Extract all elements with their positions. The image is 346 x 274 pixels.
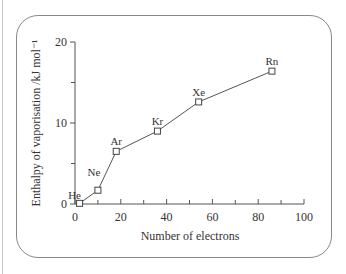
x-tick-label: 100 bbox=[295, 210, 313, 224]
y-tick-label: 20 bbox=[55, 35, 67, 49]
enthalpy-chart: 02040608010001020 HeNeArKrXeRn Number of… bbox=[0, 0, 346, 274]
y-axis-title: Enthalpy of vaporisation /kJ mol⁻¹ bbox=[29, 39, 43, 206]
x-axis-title: Number of electrons bbox=[141, 229, 240, 243]
data-point-marker bbox=[269, 68, 275, 74]
point-label-rn: Rn bbox=[266, 55, 279, 67]
data-point-marker bbox=[154, 128, 160, 134]
data-series: HeNeArKrXeRn bbox=[68, 55, 279, 206]
point-label-xe: Xe bbox=[192, 86, 205, 98]
point-label-ar: Ar bbox=[110, 135, 122, 147]
data-point-marker bbox=[196, 99, 202, 105]
x-tick-label: 60 bbox=[206, 210, 218, 224]
x-tick-label: 0 bbox=[72, 210, 78, 224]
point-label-kr: Kr bbox=[152, 115, 164, 127]
data-point-marker bbox=[95, 187, 101, 193]
y-tick-label: 0 bbox=[61, 197, 67, 211]
y-tick-label: 10 bbox=[55, 116, 67, 130]
x-tick-label: 20 bbox=[115, 210, 127, 224]
series-line bbox=[80, 71, 272, 203]
x-tick-label: 80 bbox=[252, 210, 264, 224]
data-point-marker bbox=[113, 148, 119, 154]
point-label-he: He bbox=[68, 189, 81, 201]
x-tick-label: 40 bbox=[161, 210, 173, 224]
point-label-ne: Ne bbox=[87, 166, 100, 178]
